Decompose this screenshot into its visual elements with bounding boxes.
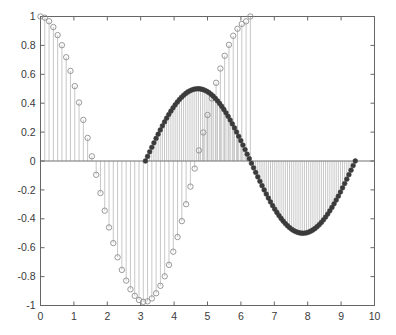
- x-tick-label: 5: [205, 310, 211, 322]
- x-tick-label: 9: [338, 310, 344, 322]
- x-tick-label: 2: [104, 310, 110, 322]
- x-tick-label: 4: [171, 310, 177, 322]
- data-point-marker: [342, 181, 347, 186]
- data-point-marker: [245, 152, 250, 157]
- data-point-marker: [238, 138, 243, 143]
- data-point-marker: [347, 172, 352, 177]
- data-point-marker: [340, 185, 345, 190]
- y-tick-label: 1: [30, 10, 36, 22]
- data-point-marker: [243, 147, 248, 152]
- x-tick-label: 10: [369, 310, 381, 322]
- data-point-marker: [255, 175, 260, 180]
- data-point-marker: [236, 134, 241, 139]
- x-tick-label: 1: [71, 310, 77, 322]
- x-tick-label: 3: [138, 310, 144, 322]
- data-point-marker: [258, 179, 263, 184]
- y-tick-label: 0.8: [21, 39, 36, 51]
- y-tick-label: 0: [30, 155, 36, 167]
- x-tick-label: 8: [305, 310, 311, 322]
- data-point-marker: [152, 140, 157, 145]
- data-point-marker: [251, 165, 256, 170]
- data-point-marker: [154, 136, 159, 141]
- data-point-marker: [241, 143, 246, 148]
- y-tick-label: -1: [26, 299, 35, 311]
- data-point-marker: [143, 159, 148, 164]
- data-point-marker: [344, 177, 349, 182]
- data-point-marker: [249, 161, 254, 166]
- data-point-marker: [145, 154, 150, 159]
- stem-plot: 012345678910-1-0.8-0.6-0.4-0.200.20.40.6…: [0, 0, 396, 335]
- y-tick-label: -0.6: [17, 241, 35, 253]
- figure-container: 012345678910-1-0.8-0.6-0.4-0.200.20.40.6…: [0, 0, 396, 335]
- y-tick-label: 0.6: [21, 68, 36, 80]
- data-point-marker: [149, 145, 154, 150]
- x-tick-label: 0: [38, 310, 44, 322]
- y-tick-label: -0.2: [17, 184, 35, 196]
- y-tick-label: -0.4: [17, 212, 35, 224]
- data-point-marker: [253, 170, 258, 175]
- data-point-marker: [353, 159, 358, 164]
- y-tick-label: -0.8: [17, 270, 35, 282]
- y-tick-label: 0.2: [21, 126, 36, 138]
- data-point-marker: [247, 156, 252, 161]
- data-point-marker: [147, 149, 152, 154]
- data-point-marker: [351, 163, 356, 168]
- data-point-marker: [349, 168, 354, 173]
- x-tick-label: 6: [238, 310, 244, 322]
- x-tick-label: 7: [271, 310, 277, 322]
- y-tick-label: 0.4: [21, 97, 36, 109]
